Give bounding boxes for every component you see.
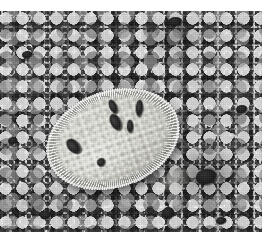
dark-stone-lower-centre xyxy=(162,207,175,220)
dark-stone-mid-left xyxy=(8,137,18,145)
dark-stone-top xyxy=(168,17,183,27)
photograph xyxy=(0,11,262,232)
light-stone-right xyxy=(228,133,235,139)
dark-stone-far-right xyxy=(236,105,248,114)
dark-stone-bottom-right xyxy=(216,217,227,225)
dark-stone-upper-left xyxy=(22,51,33,59)
dark-stone-right xyxy=(196,169,218,186)
dark-stone-bottom-left xyxy=(40,211,52,220)
screenshot-root xyxy=(0,0,274,244)
